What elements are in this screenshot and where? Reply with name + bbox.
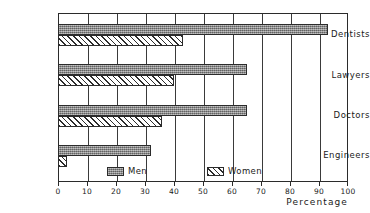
bar-women-lawyers <box>58 75 174 86</box>
category-label-doctors: Doctors <box>314 110 370 120</box>
xtick-70 <box>261 182 262 186</box>
xtick-50 <box>203 182 204 186</box>
xtick-label-0: 0 <box>46 187 70 196</box>
xtick-label-50: 50 <box>191 187 215 196</box>
xtick-label-60: 60 <box>220 187 244 196</box>
legend-label-women: Women <box>228 166 262 176</box>
category-label-engineers: Engineers <box>314 150 370 160</box>
bar-men-doctors <box>58 105 247 116</box>
xtick-label-100: 100 <box>336 187 360 196</box>
xtick-label-40: 40 <box>162 187 186 196</box>
xtick-10 <box>87 182 88 186</box>
xtick-60 <box>232 182 233 186</box>
legend-label-men: Men <box>128 166 147 176</box>
xtick-100 <box>347 182 348 186</box>
xtick-label-80: 80 <box>278 187 302 196</box>
bar-women-engineers <box>58 156 67 167</box>
legend-item-women: Women <box>207 166 262 176</box>
category-label-lawyers: Lawyers <box>314 70 370 80</box>
xtick-20 <box>116 182 117 186</box>
xtick-label-90: 90 <box>307 187 331 196</box>
xtick-80 <box>290 182 291 186</box>
legend-item-men: Men <box>107 166 147 176</box>
xtick-0 <box>58 182 59 186</box>
x-axis-title: Percentage <box>286 197 348 207</box>
legend-swatch-women-icon <box>207 167 224 176</box>
bar-men-engineers <box>58 145 151 156</box>
gridline-70 <box>262 14 263 181</box>
gridline-50 <box>204 14 205 181</box>
xtick-label-30: 30 <box>133 187 157 196</box>
xtick-30 <box>145 182 146 186</box>
gridline-80 <box>291 14 292 181</box>
xtick-label-10: 10 <box>75 187 99 196</box>
bar-women-doctors <box>58 116 162 127</box>
legend-swatch-men-icon <box>107 167 124 176</box>
xtick-40 <box>174 182 175 186</box>
xtick-90 <box>319 182 320 186</box>
bar-chart: Dentists Lawyers Doctors Engineers Men W… <box>0 0 370 213</box>
bar-men-dentists <box>58 24 328 35</box>
gridline-60 <box>233 14 234 181</box>
bar-men-lawyers <box>58 64 247 75</box>
bar-women-dentists <box>58 35 183 46</box>
xtick-label-70: 70 <box>249 187 273 196</box>
xtick-label-20: 20 <box>104 187 128 196</box>
